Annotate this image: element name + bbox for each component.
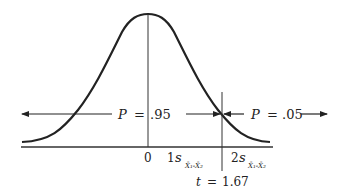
p-left-variable: P [117,107,127,122]
tick-label-1s: 1 s X̄₁-X̄₂ [167,150,203,170]
tick-2-subscript: X̄₁-X̄₂ [247,161,266,170]
normal-curve-diagram: P = .95 P = .05 0 1 s X̄₁-X̄₂ 2 s X̄₁-X̄… [0,0,345,196]
tick-1-subscript: X̄₁-X̄₂ [184,161,203,170]
tick-label-2s: 2 s X̄₁-X̄₂ [231,150,266,170]
p-95-label: P = .95 [117,107,171,122]
tick-1-var: s [175,150,182,165]
p-05-label: P = .05 [250,107,303,122]
p-right-equals: = [267,107,278,122]
diagram-canvas: P = .95 P = .05 0 1 s X̄₁-X̄₂ 2 s X̄₁-X̄… [0,0,345,196]
p-left-equals: = [134,107,145,122]
t-value-label: t = 1.67 [196,175,249,189]
tick-2-var: s [239,150,246,165]
tick-label-0: 0 [144,151,152,165]
p-right-variable: P [250,107,260,122]
t-equals: = [207,175,217,189]
t-value: 1.67 [222,175,249,189]
tick-2-coef: 2 [231,151,239,165]
tick-1-coef: 1 [167,151,175,165]
p-right-value: .05 [282,107,303,122]
bell-curve [22,14,270,142]
t-variable: t [196,175,201,189]
p-left-value: .95 [150,107,171,122]
